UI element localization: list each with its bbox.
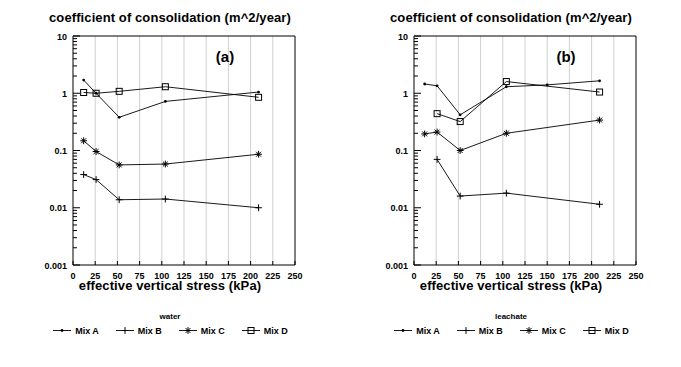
data-point-marker bbox=[434, 156, 441, 163]
ytick-label: 0.01 bbox=[49, 203, 67, 213]
legend-marker-asterisk-icon bbox=[178, 325, 198, 336]
ytick-label: 0.1 bbox=[395, 146, 408, 156]
series-line bbox=[84, 87, 259, 98]
data-point-marker bbox=[434, 129, 441, 136]
data-series-mix-b bbox=[80, 171, 262, 211]
data-point-marker bbox=[80, 137, 87, 144]
ytick-label: 0.1 bbox=[54, 146, 67, 156]
data-point-marker bbox=[436, 84, 439, 87]
panel-a-legend: water Mix AMix BMix CMix D bbox=[0, 312, 340, 336]
legend-item-mix-c[interactable]: Mix C bbox=[519, 325, 566, 336]
data-point-marker bbox=[82, 79, 85, 82]
data-point-marker bbox=[503, 190, 510, 197]
data-point-marker bbox=[459, 113, 462, 116]
legend-item-label: Mix C bbox=[542, 326, 566, 336]
legend-marker-square-icon bbox=[582, 325, 602, 336]
panel-letter-annotation: (b) bbox=[556, 48, 575, 65]
data-point-marker bbox=[434, 111, 440, 117]
ytick-label: 0.001 bbox=[385, 261, 408, 271]
data-point-marker bbox=[596, 117, 603, 124]
data-point-marker bbox=[505, 85, 508, 88]
ytick-label: 10 bbox=[57, 32, 67, 42]
data-point-marker bbox=[164, 100, 167, 103]
series-line bbox=[84, 141, 259, 165]
legend-marker-plus-icon bbox=[115, 325, 135, 336]
data-point-marker bbox=[503, 130, 510, 137]
legend-item-mix-b[interactable]: Mix B bbox=[115, 325, 162, 336]
data-point-marker bbox=[93, 148, 100, 155]
series-line bbox=[425, 81, 600, 115]
data-point-marker bbox=[162, 161, 169, 168]
data-series-mix-a bbox=[82, 79, 260, 119]
panel-a-xaxis-title: effective vertical stress (kPa) bbox=[0, 278, 340, 293]
legend-item-label: Mix D bbox=[605, 326, 629, 336]
series-line bbox=[84, 175, 259, 208]
panel-b-legend-title: leachate bbox=[341, 312, 681, 321]
chart-panel-a: coefficient of consolidation (m^2/year) … bbox=[0, 0, 340, 367]
data-point-marker bbox=[255, 204, 262, 211]
series-line bbox=[437, 159, 599, 204]
panel-letter-annotation: (a) bbox=[216, 48, 234, 65]
panel-b-plot: 0.0010.010.11100255075100125150175200225… bbox=[341, 0, 681, 300]
legend-item-label: Mix D bbox=[264, 326, 288, 336]
legend-item-mix-b[interactable]: Mix B bbox=[456, 325, 503, 336]
data-point-marker bbox=[423, 83, 426, 86]
data-point-marker bbox=[598, 79, 601, 82]
data-series-mix-a bbox=[423, 79, 601, 116]
legend-item-mix-d[interactable]: Mix D bbox=[241, 325, 288, 336]
panel-b-legend: leachate Mix AMix BMix CMix D bbox=[341, 312, 681, 336]
ytick-label: 1 bbox=[403, 89, 408, 99]
legend-item-mix-a[interactable]: Mix A bbox=[393, 325, 440, 336]
ytick-label: 10 bbox=[398, 32, 408, 42]
data-series-mix-d bbox=[434, 79, 603, 125]
chart-panel-b: coefficient of consolidation (m^2/year) … bbox=[341, 0, 681, 367]
data-point-marker bbox=[457, 193, 464, 200]
panel-b-xaxis-title: effective vertical stress (kPa) bbox=[341, 278, 681, 293]
legend-item-mix-c[interactable]: Mix C bbox=[178, 325, 225, 336]
series-line bbox=[84, 80, 259, 117]
legend-item-label: Mix A bbox=[75, 326, 99, 336]
data-point-marker bbox=[421, 130, 428, 137]
data-series-mix-b bbox=[434, 156, 603, 208]
data-point-marker bbox=[116, 162, 123, 169]
data-point-marker bbox=[162, 196, 169, 203]
data-point-marker bbox=[80, 171, 87, 178]
series-line bbox=[425, 120, 600, 150]
data-series-mix-c bbox=[421, 117, 603, 154]
data-point-marker bbox=[118, 116, 121, 119]
panel-b-legend-items: Mix AMix BMix CMix D bbox=[341, 325, 681, 336]
legend-item-label: Mix B bbox=[138, 326, 162, 336]
legend-marker-square-icon bbox=[241, 325, 261, 336]
ytick-label: 0.01 bbox=[390, 203, 408, 213]
data-series-mix-c bbox=[80, 137, 262, 168]
ytick-label: 0.001 bbox=[44, 261, 67, 271]
panel-a-legend-title: water bbox=[0, 312, 340, 321]
legend-marker-plus-icon bbox=[456, 325, 476, 336]
legend-marker-dot-icon bbox=[393, 325, 413, 336]
legend-item-mix-a[interactable]: Mix A bbox=[52, 325, 99, 336]
legend-item-label: Mix B bbox=[479, 326, 503, 336]
legend-item-label: Mix A bbox=[416, 326, 440, 336]
data-point-marker bbox=[255, 151, 262, 158]
panel-a-legend-items: Mix AMix BMix CMix D bbox=[0, 325, 340, 336]
figure-consolidation-charts: coefficient of consolidation (m^2/year) … bbox=[0, 0, 681, 367]
legend-item-label: Mix C bbox=[201, 326, 225, 336]
data-point-marker bbox=[457, 147, 464, 154]
series-line bbox=[437, 82, 599, 122]
data-point-marker bbox=[257, 91, 260, 94]
legend-item-mix-d[interactable]: Mix D bbox=[582, 325, 629, 336]
legend-marker-asterisk-icon bbox=[519, 325, 539, 336]
data-point-marker bbox=[596, 201, 603, 208]
ytick-label: 1 bbox=[62, 89, 67, 99]
legend-marker-dot-icon bbox=[52, 325, 72, 336]
panel-a-plot: 0.0010.010.11100255075100125150175200225… bbox=[0, 0, 340, 300]
data-series-mix-d bbox=[81, 84, 262, 101]
